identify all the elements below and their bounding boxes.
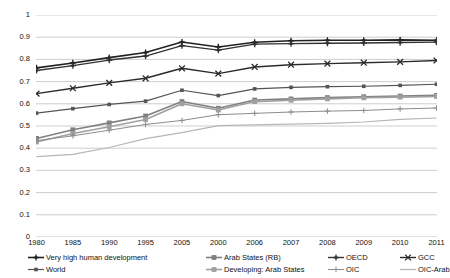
- data-point-marker: [435, 82, 437, 86]
- data-point-marker: [144, 55, 147, 58]
- series-line: [37, 118, 437, 157]
- y-axis-tick-label: 0.5: [20, 122, 30, 130]
- x-axis-tick-label: 2006: [246, 239, 263, 247]
- series-line: [37, 84, 437, 113]
- data-point-marker: [252, 99, 257, 104]
- data-point-marker: [399, 41, 402, 44]
- y-axis-tick-label: 0.4: [20, 144, 30, 152]
- legend-swatch-cross-icon: [28, 253, 44, 262]
- legend-swatch-none-icon: [400, 265, 416, 274]
- series-developing-arab-states: [36, 94, 437, 144]
- x-axis-tick-label: 2000: [210, 239, 227, 247]
- data-point-marker: [181, 44, 184, 47]
- legend-row-1: Very high human developmentArab States (…: [28, 252, 440, 263]
- legend-item[interactable]: OECD: [328, 252, 368, 263]
- chart-legend: Very high human developmentArab States (…: [28, 252, 440, 276]
- data-point-marker: [335, 256, 338, 259]
- legend-item[interactable]: GCC: [400, 252, 435, 263]
- data-point-marker: [143, 117, 148, 122]
- data-point-marker: [398, 95, 403, 100]
- data-point-marker: [36, 111, 38, 115]
- series-line: [37, 42, 437, 70]
- data-point-marker: [180, 88, 184, 92]
- x-axis-tick-label: 1980: [28, 239, 45, 247]
- y-axis: 10.90.80.70.60.50.40.30.20.10: [0, 0, 34, 237]
- legend-item[interactable]: OIC: [328, 264, 359, 275]
- legend-item[interactable]: Arab States (RB): [206, 252, 281, 263]
- series-very-high-human-development: [36, 37, 437, 71]
- y-axis-tick-label: 0.1: [20, 211, 30, 219]
- legend-item[interactable]: World: [28, 264, 65, 275]
- legend-label: Very high human development: [46, 254, 147, 262]
- y-axis-tick-label: 0.2: [20, 189, 30, 197]
- x-axis-tick-label: 1990: [101, 239, 118, 247]
- y-axis-tick-label: 0.7: [20, 78, 30, 86]
- legend-label: OIC: [346, 266, 359, 274]
- data-point-marker: [180, 101, 185, 106]
- data-point-marker: [362, 84, 366, 88]
- data-point-marker: [216, 108, 221, 113]
- data-point-marker: [398, 84, 402, 88]
- data-point-marker: [361, 95, 366, 100]
- y-axis-tick-label: 0.3: [20, 167, 30, 175]
- legend-row-2: WorldDeveloping: Arab StatesOICOIC-Arab: [28, 264, 440, 275]
- legend-swatch-square-icon: [206, 265, 222, 274]
- data-point-marker: [107, 103, 111, 107]
- x-axis-tick-label: 2007: [283, 239, 300, 247]
- y-axis-tick-label: 1: [26, 11, 30, 19]
- data-point-marker: [434, 94, 437, 99]
- x-axis-tick-label: 1985: [65, 239, 82, 247]
- plot-area: [36, 15, 437, 237]
- data-point-marker: [326, 42, 329, 45]
- y-axis-tick-label: 0.8: [20, 56, 30, 64]
- data-point-marker: [290, 42, 293, 45]
- series-oic-arab: [37, 118, 437, 157]
- data-point-marker: [253, 43, 256, 46]
- data-point-marker: [72, 64, 75, 67]
- series-gcc: [36, 58, 437, 97]
- series-line: [37, 40, 437, 68]
- x-axis-tick-label: 2005: [174, 239, 191, 247]
- data-point-marker: [435, 41, 437, 44]
- data-point-marker: [36, 69, 38, 72]
- x-axis-tick-label: 2008: [319, 239, 336, 247]
- data-point-marker: [325, 97, 330, 102]
- legend-item[interactable]: Developing: Arab States: [206, 264, 304, 275]
- x-axis-tick-label: 1995: [137, 239, 154, 247]
- data-point-marker: [35, 256, 38, 259]
- data-point-marker: [253, 87, 257, 91]
- legend-swatch-cross-icon: [328, 253, 344, 262]
- data-point-marker: [71, 107, 75, 111]
- y-axis-tick-label: 0.9: [20, 33, 30, 41]
- legend-label: OECD: [346, 254, 368, 262]
- data-point-marker: [144, 99, 148, 103]
- data-point-marker: [212, 255, 217, 260]
- legend-swatch-x-icon: [400, 253, 416, 262]
- data-point-marker: [289, 98, 294, 103]
- legend-item[interactable]: Very high human development: [28, 252, 147, 263]
- data-point-marker: [212, 267, 217, 272]
- series-arab-states-rb: [36, 93, 437, 141]
- legend-label: World: [46, 266, 65, 274]
- series-layer: [36, 15, 437, 237]
- legend-swatch-square-icon: [206, 253, 222, 262]
- data-point-marker: [108, 59, 111, 62]
- data-point-marker: [326, 85, 330, 89]
- legend-swatch-plus-icon: [328, 265, 344, 274]
- legend-label: OIC-Arab: [418, 266, 450, 274]
- x-axis-tick-label: 2010: [392, 239, 409, 247]
- y-axis-tick-label: 0.6: [20, 100, 30, 108]
- legend-label: Developing: Arab States: [224, 266, 304, 274]
- data-point-marker: [362, 42, 365, 45]
- data-point-marker: [217, 49, 220, 52]
- series-line: [37, 108, 437, 141]
- legend-label: Arab States (RB): [224, 254, 281, 262]
- x-axis-tick-label: 2011: [428, 239, 444, 247]
- series-oic: [36, 105, 437, 143]
- x-axis: 1980198519901995200520002006200720082009…: [36, 239, 437, 251]
- data-point-marker: [289, 86, 293, 90]
- legend-item[interactable]: OIC-Arab: [400, 264, 450, 275]
- data-point-marker: [217, 94, 221, 98]
- series-line: [37, 61, 437, 94]
